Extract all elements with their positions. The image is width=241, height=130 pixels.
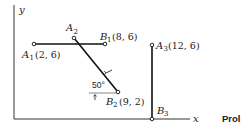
svg-text:(9, 2): (9, 2) [119, 96, 145, 107]
svg-text:1: 1 [30, 54, 34, 62]
label-a1: A 1 (2, 6) [21, 49, 61, 62]
svg-text:3: 3 [164, 110, 168, 118]
svg-text:(12, 6): (12, 6) [168, 40, 200, 51]
point-b2 [116, 90, 120, 94]
y-axis-label: y [18, 4, 25, 15]
point-a2 [72, 36, 76, 40]
point-a1 [32, 42, 36, 46]
label-b2: B 2 (9, 2) [105, 96, 145, 109]
arrowhead-icon [104, 71, 106, 75]
angle-label: 50° [92, 80, 105, 90]
problem-caption-fragment: Prol [222, 113, 240, 124]
label-b3: B 3 [156, 105, 168, 118]
svg-text:2: 2 [74, 28, 78, 36]
svg-text:(2, 6): (2, 6) [35, 49, 61, 60]
svg-text:A: A [21, 49, 29, 60]
label-a2: A 2 [65, 22, 78, 36]
label-a3: A 3 (12, 6) [155, 40, 200, 53]
point-a3 [150, 43, 154, 47]
svg-text:A: A [155, 40, 163, 51]
x-axis-label: x [193, 113, 199, 124]
svg-text:(8, 6): (8, 6) [112, 31, 138, 42]
coordinate-diagram: y x 50° A 1 (2, 6) A 2 B 1 (8, 6) A 3 (1… [0, 0, 241, 130]
svg-text:2: 2 [113, 101, 117, 109]
direction-arrow-icon [106, 70, 112, 73]
svg-text:1: 1 [107, 36, 111, 44]
point-b3 [150, 117, 154, 121]
svg-text:A: A [65, 22, 73, 33]
